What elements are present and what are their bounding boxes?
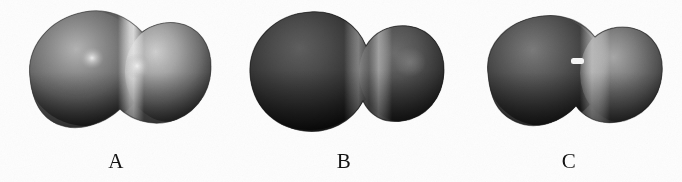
shape-a-svg <box>0 0 232 145</box>
shape-b-svg <box>232 0 456 145</box>
panel-b: B <box>232 0 456 182</box>
panel-a: A <box>0 0 232 182</box>
panel-c-label: C <box>456 151 682 172</box>
shape-a-graphic <box>0 0 232 145</box>
panel-b-label: B <box>232 151 456 172</box>
shape-b-graphic <box>232 0 456 145</box>
figure-canvas: A <box>0 0 682 182</box>
shape-c-body <box>456 0 682 145</box>
shape-b-body <box>232 0 456 145</box>
shape-c-svg <box>456 0 682 145</box>
shape-c-specular-highlight <box>571 58 584 64</box>
shape-c-graphic <box>456 0 682 145</box>
shape-a-body <box>0 0 232 145</box>
panel-c: C <box>456 0 682 182</box>
panel-a-label: A <box>0 151 232 172</box>
